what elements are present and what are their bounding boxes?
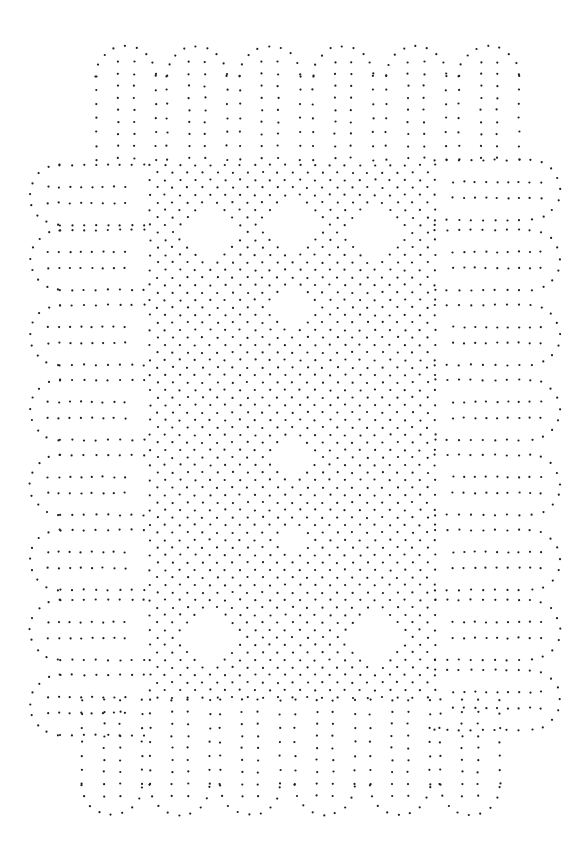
pin-hole-dot bbox=[178, 420, 180, 422]
pin-hole-dot bbox=[239, 644, 241, 646]
pin-hole-dot bbox=[506, 589, 508, 591]
pin-hole-dot bbox=[31, 321, 33, 323]
pin-hole-dot bbox=[223, 449, 225, 451]
pin-hole-dot bbox=[151, 795, 153, 797]
pin-hole-dot bbox=[359, 374, 361, 376]
pin-hole-dot bbox=[481, 229, 483, 231]
pin-hole-dot bbox=[58, 696, 60, 698]
pin-hole-dot bbox=[81, 699, 83, 701]
pin-hole-dot bbox=[404, 494, 406, 496]
pin-hole-dot bbox=[164, 598, 166, 600]
pin-hole-dot bbox=[149, 179, 151, 181]
pin-hole-dot bbox=[507, 267, 509, 269]
pin-hole-dot bbox=[194, 584, 196, 586]
pin-hole-dot bbox=[239, 239, 241, 241]
pin-hole-dot bbox=[419, 404, 421, 406]
pin-hole-dot bbox=[397, 621, 399, 623]
pin-hole-dot bbox=[268, 673, 270, 675]
pin-hole-dot bbox=[71, 599, 73, 601]
pin-hole-dot bbox=[260, 812, 262, 814]
pin-hole-dot bbox=[131, 589, 133, 591]
pin-hole-dot bbox=[241, 723, 243, 725]
pin-hole-dot bbox=[518, 417, 520, 419]
pin-hole-dot bbox=[293, 784, 295, 786]
pin-hole-dot bbox=[482, 219, 484, 221]
pin-hole-dot bbox=[411, 306, 413, 308]
pin-hole-dot bbox=[412, 666, 414, 668]
pin-hole-dot bbox=[321, 607, 323, 609]
pin-hole-dot bbox=[314, 554, 316, 556]
pin-hole-dot bbox=[329, 434, 331, 436]
pin-hole-dot bbox=[479, 813, 481, 815]
pin-hole-dot bbox=[429, 699, 431, 701]
pin-hole-dot bbox=[427, 171, 429, 173]
pin-hole-dot bbox=[558, 569, 560, 571]
pin-hole-dot bbox=[124, 186, 126, 188]
pin-hole-dot bbox=[551, 209, 553, 211]
pin-hole-dot bbox=[470, 439, 472, 441]
pin-hole-dot bbox=[269, 373, 271, 375]
pin-hole-dot bbox=[494, 659, 496, 661]
pin-hole-dot bbox=[434, 599, 436, 601]
pin-hole-dot bbox=[164, 344, 166, 346]
pin-hole-dot bbox=[37, 355, 39, 357]
pin-hole-dot bbox=[188, 109, 190, 111]
pin-hole-dot bbox=[131, 735, 133, 737]
pin-hole-dot bbox=[323, 814, 325, 816]
pin-hole-dot bbox=[322, 531, 324, 533]
pin-hole-dot bbox=[312, 76, 314, 78]
pin-hole-dot bbox=[241, 759, 243, 761]
pin-hole-dot bbox=[334, 109, 336, 111]
pin-hole-dot bbox=[284, 659, 286, 661]
pin-hole-dot bbox=[284, 254, 286, 256]
pin-hole-dot bbox=[262, 456, 264, 458]
pin-hole-dot bbox=[458, 439, 460, 441]
pin-hole-dot bbox=[179, 449, 181, 451]
pin-hole-dot bbox=[372, 159, 374, 161]
pin-hole-dot bbox=[186, 292, 188, 294]
pin-hole-dot bbox=[314, 179, 316, 181]
pin-hole-dot bbox=[90, 492, 92, 494]
pin-hole-dot bbox=[178, 434, 180, 436]
pin-hole-dot bbox=[411, 501, 413, 503]
pin-hole-dot bbox=[422, 108, 424, 110]
pin-hole-dot bbox=[239, 659, 241, 661]
pin-hole-dot bbox=[352, 592, 354, 594]
pin-hole-dot bbox=[469, 379, 471, 381]
pin-hole-dot bbox=[369, 741, 371, 743]
pin-hole-dot bbox=[171, 576, 173, 578]
pin-hole-dot bbox=[359, 435, 361, 437]
pin-hole-dot bbox=[423, 157, 425, 159]
pin-hole-dot bbox=[384, 131, 386, 133]
pin-hole-dot bbox=[261, 396, 263, 398]
pin-hole-dot bbox=[119, 379, 121, 381]
pin-hole-dot bbox=[80, 622, 82, 624]
pin-hole-dot bbox=[396, 472, 398, 474]
pin-hole-dot bbox=[351, 321, 353, 323]
pin-hole-dot bbox=[498, 47, 500, 49]
pin-hole-dot bbox=[480, 85, 482, 87]
pin-hole-dot bbox=[446, 439, 448, 441]
pin-hole-dot bbox=[254, 509, 256, 511]
pin-hole-dot bbox=[277, 667, 279, 669]
pin-hole-dot bbox=[208, 769, 210, 771]
pin-hole-dot bbox=[269, 389, 271, 391]
pin-hole-dot bbox=[277, 144, 279, 146]
pin-hole-dot bbox=[313, 614, 315, 616]
pin-hole-dot bbox=[276, 397, 278, 399]
pin-hole-dot bbox=[215, 53, 217, 55]
pin-hole-dot bbox=[359, 478, 361, 480]
pin-hole-dot bbox=[262, 486, 264, 488]
pin-hole-dot bbox=[149, 269, 151, 271]
pin-hole-dot bbox=[149, 359, 151, 361]
pin-hole-dot bbox=[343, 644, 345, 646]
pin-hole-dot bbox=[550, 313, 552, 315]
pin-hole-dot bbox=[166, 159, 168, 161]
pin-hole-dot bbox=[419, 658, 421, 660]
pin-hole-dot bbox=[494, 158, 496, 160]
pin-hole-dot bbox=[458, 529, 460, 531]
pin-hole-dot bbox=[226, 131, 228, 133]
pin-hole-dot bbox=[239, 314, 241, 316]
pin-hole-dot bbox=[531, 218, 533, 220]
pin-hole-dot bbox=[201, 681, 203, 683]
